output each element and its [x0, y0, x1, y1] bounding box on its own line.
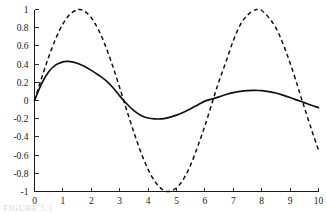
line-chart: 10.80.60.40.20-0.2-0.4-0.6-0.8-1 0123456…	[0, 0, 327, 214]
x-tick-label: 4	[146, 196, 151, 206]
y-tick-label: 0.6	[17, 41, 29, 51]
x-tick-label: 5	[174, 196, 179, 206]
x-tick-label: 6	[203, 196, 208, 206]
x-tick-label: 9	[288, 196, 293, 206]
y-tick-label: -0.4	[13, 132, 28, 142]
x-tick-label: 1	[61, 196, 66, 206]
x-tick-label: 3	[117, 196, 122, 206]
x-tick-label: 7	[231, 196, 236, 206]
series-dashed-curve	[35, 9, 319, 191]
y-tick-label: -0.8	[13, 169, 28, 179]
y-tick-label: 1	[24, 5, 29, 15]
y-tick-label: 0	[24, 96, 29, 106]
y-tick-label: -0.2	[13, 114, 28, 124]
y-tick-label: -0.6	[13, 151, 28, 161]
x-tick-labels: 012345678910	[32, 196, 323, 206]
series-solid-curve	[35, 61, 319, 119]
y-tick-label: 0.2	[17, 78, 29, 88]
y-tick-labels: 10.80.60.40.20-0.2-0.4-0.6-0.8-1	[13, 5, 28, 197]
y-tick-label: 0.8	[17, 23, 29, 33]
figure-caption: FIGURE 5.1	[3, 203, 53, 214]
y-tick-label: -1	[21, 187, 29, 197]
x-tick-label: 8	[259, 196, 264, 206]
x-tick-label: 2	[89, 196, 94, 206]
y-tick-label: 0.4	[17, 60, 29, 70]
x-tick-label: 10	[314, 196, 324, 206]
figure-container: 10.80.60.40.20-0.2-0.4-0.6-0.8-1 0123456…	[0, 0, 327, 214]
